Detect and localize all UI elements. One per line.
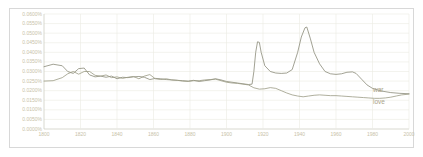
y-tick-label: 0.0450% xyxy=(12,40,42,45)
y-tick-label: 0.0500% xyxy=(12,31,42,36)
y-tick-label: 0.0050% xyxy=(12,117,42,122)
x-tick-label: 1880 xyxy=(182,132,198,137)
y-tick-label: 0.0200% xyxy=(12,88,42,93)
y-tick-label: 0.0600% xyxy=(12,12,42,17)
series-label-love[interactable]: love xyxy=(373,98,385,105)
chart-plot-svg xyxy=(0,0,423,157)
ngram-chart: 0.0000%0.0050%0.0100%0.0150%0.0200%0.025… xyxy=(0,0,423,157)
y-tick-label: 0.0550% xyxy=(12,21,42,26)
x-tick-label: 1940 xyxy=(292,132,308,137)
x-tick-label: 1840 xyxy=(109,132,125,137)
x-tick-label: 1800 xyxy=(36,132,52,137)
x-tick-label: 1860 xyxy=(146,132,162,137)
x-tick-label: 1980 xyxy=(365,132,381,137)
series-label-war[interactable]: war xyxy=(373,86,383,93)
y-tick-label: 0.0300% xyxy=(12,69,42,74)
y-tick-label: 0.0350% xyxy=(12,59,42,64)
y-tick-label: 0.0100% xyxy=(12,107,42,112)
y-tick-label: 0.0150% xyxy=(12,98,42,103)
x-tick-label: 1900 xyxy=(219,132,235,137)
y-tick-label: 0.0400% xyxy=(12,50,42,55)
x-tick-label: 1820 xyxy=(73,132,89,137)
x-tick-label: 1960 xyxy=(328,132,344,137)
x-tick-label: 1920 xyxy=(255,132,271,137)
x-tick-label: 2000 xyxy=(401,132,417,137)
y-tick-label: 0.0250% xyxy=(12,79,42,84)
